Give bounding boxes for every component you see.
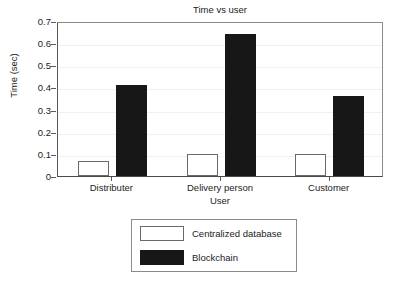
x-axis-title: User <box>57 195 383 206</box>
x-axis-tick-label: Distributer <box>90 182 133 194</box>
legend-item: Centralized database <box>140 224 282 242</box>
y-axis-tick-mark <box>51 133 56 134</box>
gridline <box>58 89 382 90</box>
y-axis-tick-mark <box>51 111 56 112</box>
plot-area <box>57 22 383 177</box>
bar <box>295 154 326 176</box>
y-axis-tick-mark <box>51 88 56 89</box>
y-axis-tick-mark <box>51 66 56 67</box>
gridline <box>58 45 382 46</box>
gridline <box>58 67 382 68</box>
x-axis-tick-mark <box>111 177 112 181</box>
legend: Centralized database Blockchain <box>131 219 297 272</box>
bar <box>333 96 364 176</box>
legend-swatch-centralized-database <box>140 226 184 241</box>
bar <box>225 34 256 176</box>
legend-label-blockchain: Blockchain <box>192 252 238 263</box>
bar <box>187 154 218 176</box>
y-axis-tick-marks <box>0 22 57 177</box>
bar <box>78 161 109 177</box>
x-axis-tick-label: Customer <box>308 182 349 194</box>
y-axis-tick-mark <box>51 22 56 23</box>
y-axis-tick-mark <box>51 44 56 45</box>
y-axis-tick-mark <box>51 177 56 178</box>
x-axis-tick-mark <box>329 177 330 181</box>
bar <box>116 85 147 176</box>
x-axis-tick-mark <box>220 177 221 181</box>
bar-chart-figure: Time vs user Time (sec) 00.10.20.30.40.5… <box>0 0 394 289</box>
chart-title: Time vs user <box>57 4 383 16</box>
legend-item: Blockchain <box>140 248 238 266</box>
x-axis-tick-label: Delivery person <box>187 182 253 194</box>
legend-swatch-blockchain <box>140 250 184 265</box>
legend-label-centralized-database: Centralized database <box>192 228 282 239</box>
y-axis-tick-mark <box>51 155 56 156</box>
